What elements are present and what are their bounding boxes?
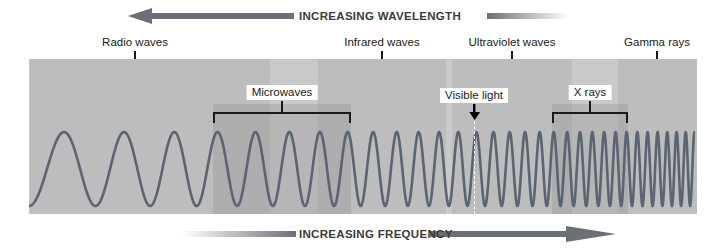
visible-light-arrow-icon: [466, 104, 483, 121]
band-label-ultraviolet-waves: Ultraviolet waves: [469, 36, 556, 48]
electromagnetic-spectrum-figure: INCREASING WAVELENGTH Radio waves Infrar…: [0, 0, 719, 248]
electromagnetic-wave: [29, 59, 695, 214]
band-label-visible-light: Visible light: [440, 88, 508, 103]
band-label-radio-waves: Radio waves: [102, 36, 168, 48]
band-label-microwaves: Microwaves: [247, 85, 318, 100]
band-label-x-rays: X rays: [569, 85, 612, 100]
increasing-frequency-axis: INCREASING FREQUENCY: [0, 222, 719, 246]
increasing-wavelength-axis: INCREASING WAVELENGTH: [0, 4, 719, 28]
band-label-gamma-rays: Gamma rays: [624, 36, 690, 48]
band-label-infrared-waves: Infrared waves: [344, 36, 419, 48]
bracket-x-rays: [552, 112, 628, 123]
visible-light-dashed-line: [474, 116, 475, 214]
increasing-frequency-label: INCREASING FREQUENCY: [299, 228, 453, 240]
increasing-wavelength-label: INCREASING WAVELENGTH: [299, 10, 461, 22]
bracket-microwaves: [213, 112, 351, 123]
spectrum-panel: [29, 59, 695, 214]
